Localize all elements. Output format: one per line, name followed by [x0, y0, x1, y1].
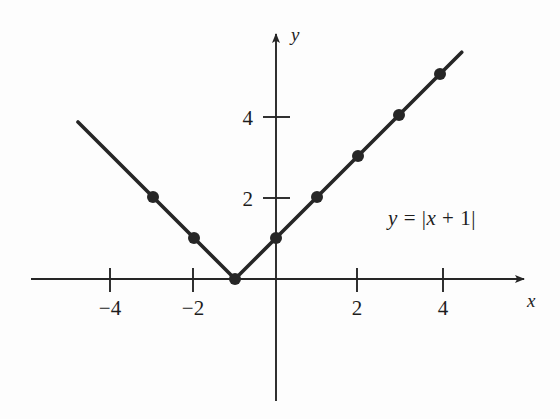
- equation-close-bar: |: [471, 206, 476, 230]
- data-point: [147, 191, 159, 203]
- data-point: [311, 191, 323, 203]
- x-tick-label-4: 4: [438, 298, 449, 319]
- data-point: [434, 68, 446, 80]
- x-tick-label-2: 2: [352, 298, 363, 319]
- equation-y-variable: y: [388, 206, 398, 230]
- equation-x-variable: x: [427, 206, 437, 230]
- absolute-value-polyline: [78, 52, 462, 279]
- data-point: [229, 273, 241, 285]
- equation-equals-sign: =: [404, 206, 416, 230]
- function-curve: [78, 52, 462, 279]
- data-point: [270, 232, 282, 244]
- y-tick-label-2: 2: [243, 189, 254, 210]
- x-tick-label--4: −4: [99, 298, 121, 319]
- data-point: [393, 109, 405, 121]
- data-point: [188, 232, 200, 244]
- plot-canvas: [0, 0, 560, 419]
- data-point: [352, 150, 364, 162]
- x-tick-label--2: −2: [182, 298, 204, 319]
- equation-plus-one: + 1: [442, 206, 471, 230]
- x-axis-label: x: [527, 291, 535, 310]
- graph-figure: y x −4 −2 2 4 2 4 y = |x + 1|: [0, 0, 560, 419]
- data-point-markers: [147, 68, 446, 285]
- equation-annotation: y = |x + 1|: [388, 206, 476, 231]
- y-axis-label: y: [291, 25, 299, 44]
- y-tick-label-4: 4: [243, 108, 254, 129]
